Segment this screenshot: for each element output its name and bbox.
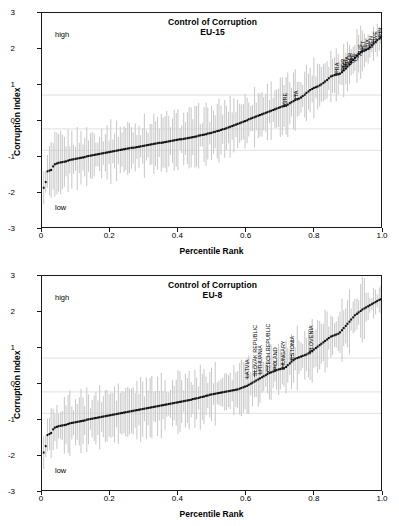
x-tick-label: 0.8	[297, 494, 331, 503]
x-tick-label: 0	[24, 231, 58, 240]
country-label-latvia: LATVIA	[244, 360, 250, 379]
x-tick-label: 0.4	[160, 231, 194, 240]
note-high-eu8: high	[55, 293, 69, 302]
plot-area-eu8: Control of Corruption EU-8 high low LATV…	[41, 275, 382, 491]
country-label-gre: GRE	[282, 92, 288, 104]
x-tick-mark	[382, 491, 383, 495]
y-tick-label: 3	[0, 8, 15, 17]
country-label-slovenia: SLOVENIA	[308, 325, 314, 353]
y-tick-mark	[37, 84, 41, 85]
x-tick-mark	[177, 228, 178, 232]
x-tick-label: 0.6	[229, 494, 263, 503]
y-tick-label: 0	[0, 379, 15, 388]
x-tick-label: 0	[24, 494, 58, 503]
x-tick-label: 0.2	[92, 231, 126, 240]
x-tick-label: 0.8	[297, 231, 331, 240]
y-tick-mark	[37, 419, 41, 420]
chart-subtitle-eu15: EU-15	[42, 27, 383, 38]
chart-title-line1-eu8: Control of Corruption	[42, 280, 383, 291]
x-tick-mark	[313, 491, 314, 495]
y-tick-label: -2	[0, 188, 15, 197]
x-tick-mark	[382, 228, 383, 232]
plot-area-eu15: Control of Corruption EU-15 high low GRE…	[41, 12, 382, 228]
y-tick-label: 1	[0, 343, 15, 352]
x-tick-label: 1.0	[365, 494, 399, 503]
chart-panel-eu15: Corruption Index Control of Corruption E…	[0, 0, 399, 263]
x-axis-title-eu8: Percentile Rank	[41, 509, 382, 519]
country-label-czech-republic: CZECH REPUBLIC	[265, 323, 271, 371]
y-tick-mark	[37, 192, 41, 193]
country-label-lithuania: LITHUANIA	[257, 345, 263, 374]
y-tick-mark	[37, 275, 41, 276]
x-tick-mark	[41, 491, 42, 495]
y-tick-mark	[37, 120, 41, 121]
y-tick-mark	[37, 455, 41, 456]
y-tick-mark	[37, 12, 41, 13]
x-tick-label: 0.4	[160, 494, 194, 503]
plot-canvas-eu8	[42, 276, 381, 490]
x-axis-title-eu15: Percentile Rank	[41, 246, 382, 256]
x-tick-mark	[245, 491, 246, 495]
note-high-eu15: high	[55, 30, 69, 39]
x-tick-mark	[177, 491, 178, 495]
y-tick-mark	[37, 383, 41, 384]
plot-canvas-eu15	[42, 13, 381, 227]
chart-title-line1-eu15: Control of Corruption	[42, 17, 383, 28]
x-tick-label: 0.6	[229, 231, 263, 240]
chart-subtitle-eu8: EU-8	[42, 290, 383, 301]
y-tick-label: -1	[0, 415, 15, 424]
country-label-ita: ITA	[293, 91, 299, 100]
y-tick-label: 2	[0, 307, 15, 316]
note-low-eu8: low	[55, 466, 66, 475]
y-tick-label: -1	[0, 152, 15, 161]
y-tick-label: -2	[0, 451, 15, 460]
country-label-poland: POLAND	[272, 347, 278, 370]
y-tick-label: -3	[0, 487, 15, 496]
country-label-estonia: ESTONIA	[289, 336, 295, 360]
x-tick-label: 0.2	[92, 494, 126, 503]
x-tick-mark	[109, 228, 110, 232]
y-tick-label: 3	[0, 271, 15, 280]
country-label-fin: FIN	[377, 28, 383, 37]
y-tick-label: 2	[0, 44, 15, 53]
y-tick-mark	[37, 347, 41, 348]
note-low-eu15: low	[55, 203, 66, 212]
x-tick-mark	[313, 228, 314, 232]
y-tick-label: 1	[0, 80, 15, 89]
x-tick-label: 1.0	[365, 231, 399, 240]
x-tick-mark	[41, 228, 42, 232]
y-tick-label: -3	[0, 224, 15, 233]
country-label-hungary: HUNGARY	[280, 340, 286, 368]
x-tick-mark	[245, 228, 246, 232]
y-tick-mark	[37, 311, 41, 312]
y-tick-label: 0	[0, 116, 15, 125]
y-tick-mark	[37, 48, 41, 49]
x-tick-mark	[109, 491, 110, 495]
chart-panel-eu8: Corruption Index Control of Corruption E…	[0, 263, 399, 526]
y-tick-mark	[37, 156, 41, 157]
